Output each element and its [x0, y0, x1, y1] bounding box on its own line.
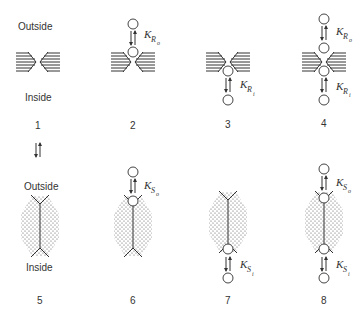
- svg-text:i: i: [253, 91, 255, 97]
- inside-label-bottom: Inside: [26, 262, 53, 273]
- ion-inside-free: [223, 95, 233, 105]
- svg-text:i: i: [349, 92, 351, 98]
- panel-number-3: 3: [225, 119, 231, 130]
- diagram-canvas: Outside Inside 1 K R o 2 K R i 3: [0, 0, 364, 319]
- k-label-r-i: K R i: [239, 78, 255, 97]
- outside-label-top: Outside: [18, 21, 53, 32]
- svg-text:o: o: [349, 37, 352, 43]
- svg-text:R: R: [342, 32, 348, 41]
- k-label-s-o-8: K S o: [335, 176, 351, 194]
- ion-inside-bound: [223, 66, 233, 76]
- ion-outside-free: [128, 19, 138, 29]
- svg-text:R: R: [342, 87, 348, 96]
- svg-text:S: S: [343, 183, 347, 192]
- outside-label-bottom: Outside: [24, 181, 59, 192]
- svg-text:i: i: [252, 271, 254, 277]
- svg-text:o: o: [156, 191, 159, 197]
- panel-number-5: 5: [37, 295, 43, 306]
- k-label-r-o: K R o: [143, 28, 160, 46]
- svg-text:o: o: [157, 40, 160, 46]
- panel-number-1: 1: [35, 120, 41, 131]
- k-label-r-i-4: K R i: [335, 80, 351, 98]
- svg-text:i: i: [348, 271, 350, 277]
- panel-number-7: 7: [225, 295, 231, 306]
- panel-number-2: 2: [130, 120, 136, 131]
- panel-number-6: 6: [130, 295, 136, 306]
- svg-text:S: S: [151, 186, 155, 195]
- svg-text:R: R: [150, 35, 156, 44]
- svg-text:S: S: [247, 265, 251, 274]
- svg-text:o: o: [348, 188, 351, 194]
- ion-outside-bound: [128, 47, 138, 57]
- panel-1-r-channel: [16, 52, 60, 72]
- inside-label-top: Inside: [25, 92, 52, 103]
- k-label-r-o-4: K R o: [335, 25, 352, 43]
- k-label-s-o: K S o: [143, 179, 159, 197]
- k-label-s-i: K S i: [239, 258, 254, 277]
- transition-arrows-icon: [34, 142, 42, 158]
- svg-text:R: R: [246, 85, 252, 94]
- panel-number-4: 4: [321, 118, 327, 129]
- svg-text:S: S: [343, 265, 347, 274]
- k-label-s-i-8: K S i: [335, 258, 350, 277]
- panel-5-s-channel: [21, 195, 59, 257]
- panel-number-8: 8: [321, 295, 327, 306]
- panel-2-r-channel: [111, 19, 155, 72]
